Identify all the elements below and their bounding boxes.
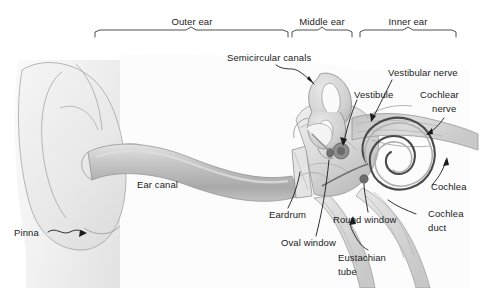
label-vestibular-nerve: Vestibular nerve: [388, 67, 458, 78]
label-semicircular-canals: Semicircular canals: [227, 52, 311, 63]
ear-illustration: [0, 0, 481, 288]
region-label-middle-ear: Middle ear: [284, 16, 360, 27]
bracket-middle-ear: [292, 27, 352, 37]
oval-window-shape: [327, 149, 333, 157]
label-eustachian-tube-line2: tube: [338, 266, 357, 277]
region-label-outer-ear: Outer ear: [152, 16, 232, 27]
ear-anatomy-diagram: Outer ear Middle ear Inner ear Semicircu…: [0, 0, 481, 288]
label-round-window: Round window: [333, 214, 397, 225]
label-cochlea-duct-line1: Cochlea: [428, 208, 464, 219]
label-cochlea-duct-line2: duct: [428, 222, 446, 233]
vestibule-shape: [333, 143, 349, 159]
label-oval-window: Oval window: [281, 237, 336, 248]
label-vestibule: Vestibule: [354, 89, 393, 100]
region-label-inner-ear: Inner ear: [372, 16, 444, 27]
bracket-outer-ear: [95, 27, 288, 37]
label-ear-canal: Ear canal: [137, 179, 178, 190]
bracket-inner-ear: [360, 27, 456, 37]
label-cochlea: Cochlea: [431, 181, 467, 192]
label-eardrum: Eardrum: [269, 209, 306, 220]
label-pinna: Pinna: [14, 227, 39, 238]
region-brackets: [95, 27, 456, 37]
label-cochlear-nerve-line2: nerve: [432, 103, 456, 114]
label-cochlear-nerve-line1: Cochlear: [420, 89, 459, 100]
round-window-shape: [360, 175, 368, 183]
label-eustachian-tube-line1: Eustachian: [338, 252, 386, 263]
